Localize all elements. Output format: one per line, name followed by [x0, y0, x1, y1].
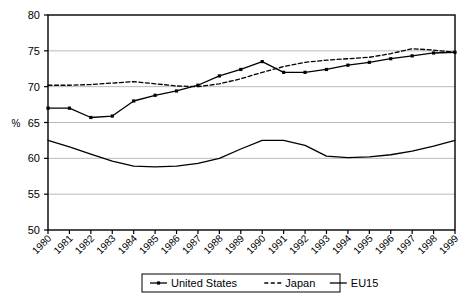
legend-label: EU15: [351, 277, 379, 289]
x-tick-label: 1991: [266, 232, 290, 256]
x-tick-label: 1999: [437, 232, 461, 256]
y-tick-label: 75: [28, 45, 40, 57]
x-tick-label: 1983: [94, 232, 118, 256]
data-point-marker: [389, 57, 392, 60]
chart-legend: United StatesJapanEU15: [142, 274, 378, 292]
data-point-marker: [368, 61, 371, 64]
data-point-marker: [89, 116, 92, 119]
series-line-united-states: [48, 52, 455, 117]
x-tick-label: 1993: [308, 232, 332, 256]
data-point-marker: [68, 107, 71, 110]
y-tick-label: 80: [28, 9, 40, 21]
x-tick-label: 1981: [51, 232, 75, 256]
x-tick-label: 1990: [244, 232, 268, 256]
x-tick-label: 1989: [223, 232, 247, 256]
data-series-layer: [46, 49, 456, 167]
y-tick-label: 70: [28, 81, 40, 93]
data-point-marker: [282, 71, 285, 74]
data-point-marker: [303, 71, 306, 74]
legend-label: United States: [171, 277, 238, 289]
line-chart: 50556065707580 1980198119821983198419851…: [0, 0, 474, 303]
y-tick-label: 60: [28, 152, 40, 164]
data-point-marker: [111, 114, 114, 117]
x-tick-label: 1997: [394, 232, 418, 256]
x-tick-label: 1992: [287, 232, 311, 256]
data-point-marker: [132, 99, 135, 102]
data-point-marker: [432, 51, 435, 54]
y-axis-tick-labels: 50556065707580: [28, 9, 40, 236]
y-axis-title: %: [12, 118, 21, 129]
data-point-marker: [325, 68, 328, 71]
data-point-marker: [154, 94, 157, 97]
legend-label: Japan: [285, 277, 315, 289]
y-tick-label: 50: [28, 224, 40, 236]
x-tick-label: 1988: [201, 232, 225, 256]
x-tick-label: 1984: [116, 232, 140, 256]
x-tick-label: 1995: [351, 232, 375, 256]
legend-marker: [157, 281, 160, 284]
x-tick-label: 1987: [180, 232, 204, 256]
data-point-marker: [261, 60, 264, 63]
series-line-eu15: [48, 140, 455, 167]
series-line-japan: [48, 49, 455, 87]
x-tick-label: 1996: [373, 232, 397, 256]
y-tick-label: 65: [28, 117, 40, 129]
x-tick-label: 1985: [137, 232, 161, 256]
x-tick-label: 1994: [330, 232, 354, 256]
data-point-marker: [239, 68, 242, 71]
x-tick-label: 1998: [415, 232, 439, 256]
x-axis-tick-labels: 1980198119821983198419851986198719881989…: [30, 232, 461, 256]
x-tick-label: 1982: [73, 232, 97, 256]
gridlines: [48, 51, 455, 194]
data-point-marker: [46, 107, 49, 110]
x-tick-label: 1986: [158, 232, 182, 256]
data-point-marker: [346, 64, 349, 67]
chart-container: 50556065707580 1980198119821983198419851…: [0, 0, 474, 303]
y-tick-label: 55: [28, 188, 40, 200]
data-point-marker: [175, 89, 178, 92]
data-point-marker: [218, 74, 221, 77]
data-point-marker: [411, 54, 414, 57]
